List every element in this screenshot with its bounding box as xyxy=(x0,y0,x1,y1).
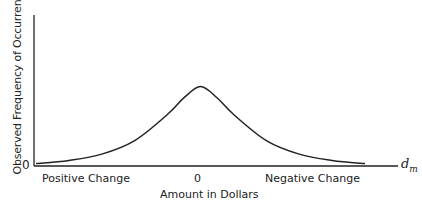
origin-tick-label: 0 xyxy=(22,158,30,172)
center-tick-label: 0 xyxy=(194,172,201,185)
x-axis-label: Amount in Dollars xyxy=(160,188,259,201)
right-category-label: Negative Change xyxy=(265,172,360,185)
frequency-curve xyxy=(36,87,365,164)
left-category-label: Positive Change xyxy=(42,172,130,185)
axis-end-label: dm xyxy=(401,156,418,174)
axis-end-label-sub: m xyxy=(409,164,418,174)
y-axis-label: Observed Frequency of Occurrence xyxy=(11,15,24,175)
